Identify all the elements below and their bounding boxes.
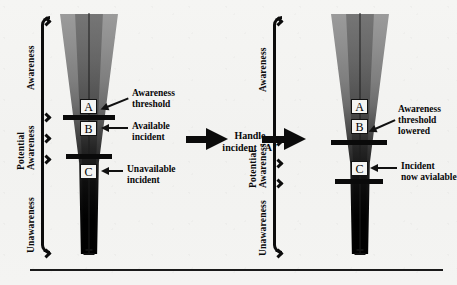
funnel-foot-tip-after — [357, 249, 364, 251]
callout-line-2: now avialable — [401, 172, 457, 183]
callout-threshold-lowered-after: Awareness threshold lowered — [398, 104, 441, 137]
label-unawareness-before: Unawareness — [26, 197, 36, 253]
pointer-available-incident-before — [108, 127, 128, 129]
callout-unavailable-incident-before: Unavailable incident — [127, 164, 176, 186]
callout-incident-available-after: Incident now avialable — [401, 161, 457, 183]
funnel-foot-after — [355, 253, 366, 255]
callout-line-2: incident — [127, 175, 176, 186]
label-awareness-after: Awareness — [258, 47, 268, 92]
callout-line-1: Awareness — [398, 104, 441, 115]
funnel-foot-before — [84, 253, 95, 255]
incident-box-a-before[interactable]: A — [80, 99, 97, 114]
funnel-foot-tip-before — [86, 249, 93, 251]
potential-threshold-bar-after — [335, 179, 383, 184]
incident-box-c-before[interactable]: C — [80, 164, 97, 179]
transition-arrow-in — [186, 136, 206, 143]
potential-threshold-bar-before — [66, 154, 112, 159]
callout-line-1: Available — [132, 121, 170, 132]
incident-box-b-before[interactable]: B — [80, 121, 97, 136]
footer-rule — [30, 269, 443, 271]
callout-available-incident-before: Available incident — [132, 121, 170, 143]
label-potential-awareness-line1-after: Potential — [248, 150, 258, 188]
callout-line-2: threshold — [132, 99, 175, 110]
callout-awareness-threshold-before: Awareness threshold — [132, 88, 175, 110]
brace-outer-after — [273, 16, 282, 254]
incident-box-c-after[interactable]: C — [351, 161, 368, 176]
callout-line-1: Unavailable — [127, 164, 176, 175]
incident-box-b-after[interactable]: B — [351, 119, 368, 134]
callout-line-1: Incident — [401, 161, 457, 172]
pointer-incident-available-after — [377, 167, 397, 169]
callout-line-2: incident — [132, 132, 170, 143]
awareness-threshold-bar-after — [331, 140, 387, 145]
callout-line-3: lowered — [398, 126, 441, 137]
incident-box-a-after[interactable]: A — [351, 99, 368, 114]
panel-after: Awareness Awareness Potential Unawarenes… — [230, 0, 457, 285]
label-unawareness-after: Unawareness — [258, 200, 268, 256]
awareness-threshold-bar-before — [63, 115, 115, 120]
label-potential-awareness-line1-before: Potential — [16, 132, 26, 170]
label-potential-awareness-line2-after: Awareness — [258, 143, 268, 188]
label-potential-awareness-line2-before: Awareness — [26, 125, 36, 170]
label-awareness-before: Awareness — [26, 45, 36, 90]
awareness-funnel-after — [331, 14, 389, 254]
callout-line-1: Awareness — [132, 88, 175, 99]
callout-line-2: threshold — [398, 115, 441, 126]
pointer-unavailable-incident-before — [108, 170, 123, 172]
